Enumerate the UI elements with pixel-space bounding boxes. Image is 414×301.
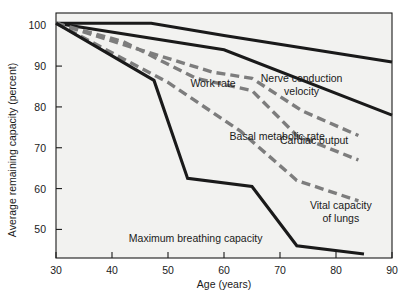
x-tick-label-70: 70: [274, 264, 286, 276]
x-tick-label-80: 80: [330, 264, 342, 276]
x-tick-label-90: 90: [386, 264, 398, 276]
x-tick-label-50: 50: [162, 264, 174, 276]
series-label-5: Maximum breathing capacity: [129, 232, 263, 244]
y-tick-labels: 5060708090100: [28, 19, 46, 235]
series-label-3: Cardiac output: [280, 134, 348, 146]
x-tick-label-40: 40: [106, 264, 118, 276]
y-tick-label-60: 60: [34, 183, 46, 195]
y-tick-label-90: 90: [34, 60, 46, 72]
y-tick-label-70: 70: [34, 142, 46, 154]
y-tick-label-100: 100: [28, 19, 46, 31]
x-axis-title: Age (years): [197, 278, 251, 290]
x-tick-label-60: 60: [218, 264, 230, 276]
y-tick-label-80: 80: [34, 101, 46, 113]
y-tick-label-50: 50: [34, 223, 46, 235]
y-axis-title: Average remaining capacity (percent): [6, 63, 18, 237]
x-tick-label-30: 30: [50, 264, 62, 276]
x-tick-labels: 30405060708090: [50, 264, 398, 276]
line-chart-canvas: Nerve conductionvelocityBasal metabolic …: [0, 0, 414, 301]
chart-figure: Nerve conductionvelocityBasal metabolic …: [0, 0, 414, 301]
series-label-2: Work rate: [190, 77, 235, 89]
